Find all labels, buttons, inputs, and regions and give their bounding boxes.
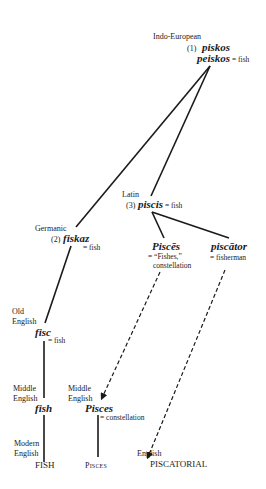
ie-word-peiskos: peiskos [197,53,230,64]
me-fish-label-1: Middle [13,385,36,393]
modern-label-2: English [14,450,38,458]
latin-pisces-gloss1: = “Fishes,” [148,253,182,261]
latin-pisces-gloss2: constellation [153,262,191,270]
me-fish-word: fish [35,403,52,414]
latin-gloss: = fish [165,202,182,210]
germanic-number: (2) [51,236,60,244]
latin-word: piscis [138,199,163,210]
oe-label-1: Old [12,308,24,316]
ie-number: (1) [187,45,196,53]
me-fish-label-2: English [13,395,37,403]
oe-label-2: English [12,318,36,326]
oe-gloss: = fish [48,337,65,345]
piscatorial-word: PISCATORIAL [150,460,207,469]
modern-label-1: Modern [14,440,39,448]
edge-piscator-piscatorial [148,270,225,457]
edge-ie-latin [151,66,210,196]
english-label: English [137,450,161,458]
edge-latin-piscator [152,212,229,238]
piscator-gloss: = fisherman [210,254,246,262]
edge-pisces-mepisces [102,272,160,398]
piscator-word: piscātor [211,241,247,252]
latin-label: Latin [122,191,139,199]
me-pisces-label-1: Middle [68,385,91,393]
ie-gloss: = fish [232,56,249,64]
germanic-gloss: = fish [83,244,100,252]
edge-germanic-oldenglish [45,246,71,323]
modern-word-pisces: Pisces [85,462,107,470]
latin-pisces-word: Piscēs [152,241,180,252]
ie-label: Indo-European [153,33,201,41]
modern-word-fish: FISH [35,461,55,470]
germanic-label: Germanic [35,225,67,233]
latin-number: (3) [126,202,135,210]
me-pisces-gloss: = constellation [100,414,144,422]
